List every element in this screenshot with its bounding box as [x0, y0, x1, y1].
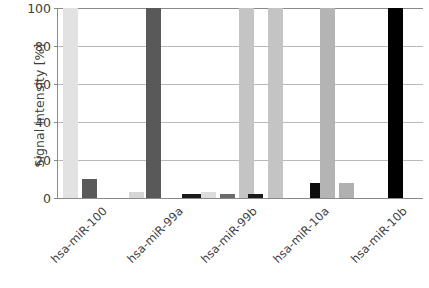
y-tick-label: 60	[35, 77, 51, 92]
x-tick-label: hsa-miR-10a	[270, 204, 332, 266]
y-tick-mark	[54, 122, 58, 123]
bar	[248, 194, 263, 198]
y-tick-label: 100	[27, 1, 51, 16]
y-tick-mark	[54, 198, 58, 199]
bar	[388, 8, 403, 198]
bar	[239, 8, 254, 198]
x-tick-label: hsa-miR-10b	[348, 204, 410, 266]
x-tick-label: hsa-miR-99b	[198, 204, 260, 266]
bar	[63, 8, 78, 198]
bar	[220, 194, 235, 198]
y-tick-label: 40	[35, 115, 51, 130]
bar-chart: Signal intensity [%] 020406080100 hsa-mi…	[0, 0, 429, 288]
x-tick-label: hsa-miR-100	[48, 204, 110, 266]
y-tick-label: 20	[35, 153, 51, 168]
bar	[268, 8, 283, 198]
bar	[182, 194, 197, 198]
bar	[129, 192, 144, 198]
x-tick-label: hsa-miR-99a	[124, 204, 186, 266]
bar	[320, 8, 335, 198]
y-tick-label: 0	[43, 191, 51, 206]
bar	[339, 183, 354, 198]
y-axis-title: Signal intensity [%]	[32, 6, 47, 206]
y-tick-mark	[54, 46, 58, 47]
y-tick-label: 80	[35, 39, 51, 54]
y-tick-mark	[54, 84, 58, 85]
y-tick-mark	[54, 160, 58, 161]
bar	[201, 192, 216, 198]
bar	[82, 179, 97, 198]
y-tick-mark	[54, 8, 58, 9]
plot-area: 020406080100	[57, 8, 423, 199]
bar	[146, 8, 161, 198]
